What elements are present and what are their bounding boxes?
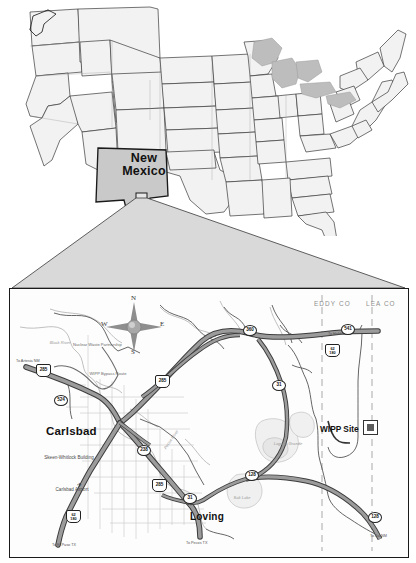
county-label-lea: LEA CO <box>366 300 396 307</box>
water-label-laguna-grande: Laguna Grande <box>272 441 304 446</box>
map-figure: New Mexico <box>0 0 416 563</box>
water-label-salt-lake: Salt Lake <box>228 495 256 500</box>
county-label-eddy: EDDY CO <box>314 300 351 307</box>
water-label-black-river: Black River <box>45 340 75 345</box>
place-label-nuclear-waste-partnership: Nuclear Waste Partnership <box>73 342 115 347</box>
nm-128-marker-west[interactable]: 128 <box>245 470 259 481</box>
place-label-wipp-bypass-route: WIPP Bypass Route <box>84 371 132 376</box>
wipp-site-label: WIPP Site <box>320 424 359 434</box>
nm-128-marker-southeast[interactable]: 128 <box>368 512 382 523</box>
compass-west-label: W <box>101 320 108 328</box>
nm-360-marker[interactable]: 360 <box>243 325 257 336</box>
compass-south-label: S <box>131 348 135 356</box>
to-el-paso-tx-label: To El Paso TX <box>52 543 76 547</box>
compass-east-label: E <box>160 320 164 328</box>
us-62-180-shield-east[interactable]: 62180 <box>325 344 340 357</box>
new-mexico-label: New Mexico <box>112 152 176 178</box>
place-label-skeen-whitlock: Skeen-Whitlock Building <box>40 455 98 460</box>
place-label-carlsbad-airport: Carlsbad Airport <box>52 487 92 492</box>
nm-31-marker-loving[interactable]: 31 <box>183 493 197 504</box>
nm-238-marker[interactable]: 238 <box>137 445 151 456</box>
city-label-carlsbad: Carlsbad <box>46 425 97 437</box>
compass-north-label: N <box>131 294 136 302</box>
us-285-shield-northwest[interactable]: 285 <box>36 364 51 377</box>
nm-31-marker-north[interactable]: 31 <box>272 380 286 391</box>
nm-524-marker[interactable]: 524 <box>54 395 68 406</box>
to-artesia-nm-label: To Artesia NM <box>16 359 40 363</box>
us-285-shield-south[interactable]: 285 <box>152 479 167 492</box>
nm-541-marker[interactable]: 541 <box>341 324 355 335</box>
to-jal-nm-label: To Jal NM <box>370 534 387 538</box>
city-label-loving: Loving <box>190 511 224 522</box>
us-62-180-shield-southwest[interactable]: 62180 <box>66 510 81 523</box>
us-285-shield-carlsbad[interactable]: 285 <box>155 375 170 388</box>
wipp-site-marker-icon <box>363 420 378 435</box>
airport-icon: ✈ <box>77 481 82 488</box>
to-pecos-tx-label: To Pecos TX <box>186 541 207 545</box>
